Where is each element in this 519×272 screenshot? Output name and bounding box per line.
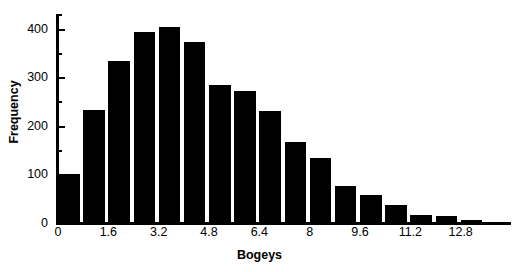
x-axis-tick-label: 8: [287, 226, 333, 240]
histogram-bar: [486, 222, 508, 223]
histogram-bar: [58, 174, 80, 223]
x-axis-title: Bogeys: [0, 248, 519, 262]
histogram-bar: [234, 91, 256, 223]
y-axis-tick-label: 100: [18, 168, 48, 181]
histogram-bar: [436, 216, 458, 223]
plot-area: [58, 14, 511, 223]
y-axis-tick-label: 200: [18, 120, 48, 133]
y-axis-tick-label: 400: [18, 23, 48, 36]
x-axis-tick-label: 3.2: [136, 226, 182, 240]
x-axis-tick-label: 12.8: [438, 226, 484, 240]
y-axis-tick-label: 300: [18, 71, 48, 84]
histogram-bar: [184, 42, 206, 223]
x-axis-tick-label: 6.4: [236, 226, 282, 240]
histogram-bar: [335, 186, 357, 223]
histogram-bar: [285, 142, 307, 223]
histogram-bar: [310, 158, 332, 223]
x-axis-tick-label: 11.2: [387, 226, 433, 240]
x-axis-tick-labels: 01.63.24.86.489.611.212.8: [0, 226, 519, 244]
x-axis-tick-label: 4.8: [186, 226, 232, 240]
histogram-bar: [108, 61, 130, 223]
histogram-bar: [410, 215, 432, 223]
histogram-chart: Frequency 0100200300400 01.63.24.86.489.…: [0, 0, 519, 272]
histogram-bar: [385, 205, 407, 223]
histogram-bar: [209, 85, 231, 223]
histogram-bar: [461, 220, 483, 223]
histogram-bar: [83, 110, 105, 223]
x-axis-tick-label: 9.6: [337, 226, 383, 240]
histogram-bar: [159, 27, 181, 223]
histogram-bar: [134, 32, 156, 224]
histogram-bar: [360, 195, 382, 223]
x-axis-tick-label: 0: [35, 226, 81, 240]
histogram-bar: [259, 111, 281, 223]
x-axis-tick-label: 1.6: [85, 226, 131, 240]
